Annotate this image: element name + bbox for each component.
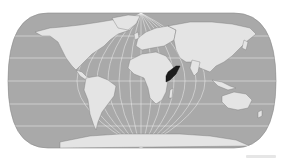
world-map xyxy=(0,0,282,160)
watermark xyxy=(246,155,276,158)
